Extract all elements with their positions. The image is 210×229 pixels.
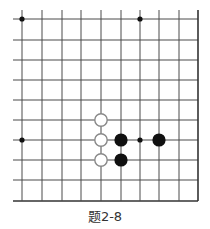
- star-point-icon: [19, 137, 24, 142]
- star-point-icon: [137, 16, 142, 21]
- white-stone-icon: [95, 114, 107, 126]
- board-grid: [13, 10, 198, 201]
- star-point-icon: [19, 16, 24, 21]
- black-stone-icon: [152, 133, 165, 146]
- go-board: [0, 0, 210, 205]
- black-stone-icon: [114, 153, 127, 166]
- white-stone-icon: [95, 154, 107, 166]
- white-stone-icon: [95, 134, 107, 146]
- star-point-icon: [137, 137, 142, 142]
- black-stone-icon: [114, 133, 127, 146]
- problem-caption: 题2-8: [0, 206, 210, 225]
